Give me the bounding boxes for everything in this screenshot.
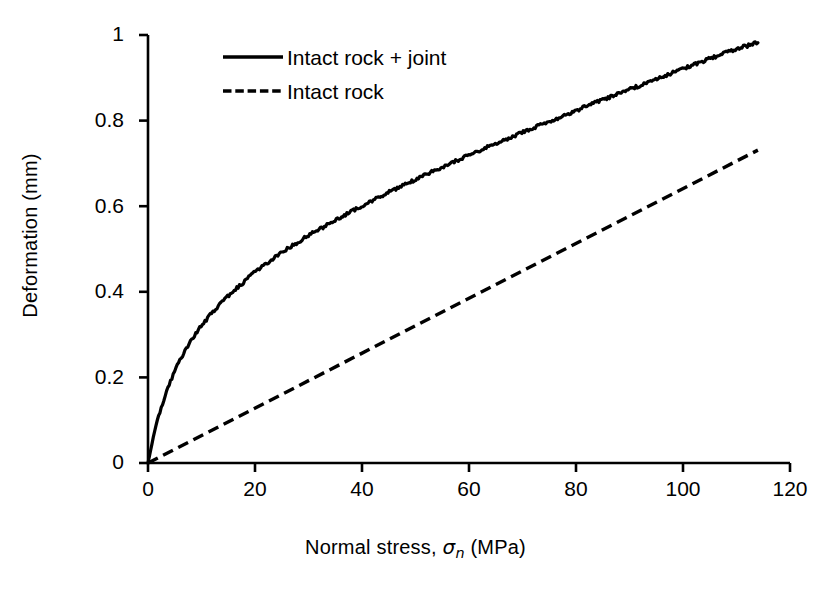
x-tick-label: 80	[546, 477, 606, 501]
x-tick-label: 40	[332, 477, 392, 501]
chart-legend: Intact rock + joint Intact rock	[222, 40, 446, 108]
y-tick-label: 0.8	[62, 108, 124, 132]
legend-swatch-dashed-line	[222, 84, 284, 98]
x-axis-title: Normal stress, σn (MPa)	[0, 535, 831, 561]
x-axis-title-prefix: Normal stress,	[305, 536, 442, 558]
x-axis-title-suffix: (MPa)	[465, 536, 526, 558]
legend-item-intact-rock: Intact rock	[222, 74, 446, 108]
x-tick-label: 60	[439, 477, 499, 501]
y-tick-label: 0.4	[62, 279, 124, 303]
legend-item-intact-rock-joint: Intact rock + joint	[222, 40, 446, 74]
y-axis-title-container: Deformation (mm)	[0, 0, 60, 470]
y-tick-label: 0.2	[62, 365, 124, 389]
x-tick-label: 100	[653, 477, 713, 501]
y-tick-label: 1	[62, 22, 124, 46]
legend-label: Intact rock + joint	[287, 47, 446, 68]
legend-swatch-solid-line	[222, 50, 284, 64]
chart-figure: 1 0.8 0.6 0.4 0.2 0 0 20 40 60 80 100 12…	[0, 0, 831, 597]
legend-label: Intact rock	[287, 81, 384, 102]
y-tick-label: 0.6	[62, 194, 124, 218]
y-tick-label: 0	[62, 450, 124, 474]
x-tick-label: 20	[225, 477, 285, 501]
y-axis-title: Deformation (mm)	[19, 153, 42, 317]
sigma-symbol: σ	[443, 535, 456, 559]
x-tick-label: 0	[118, 477, 178, 501]
sigma-subscript: n	[455, 545, 464, 561]
x-tick-label: 120	[760, 477, 820, 501]
